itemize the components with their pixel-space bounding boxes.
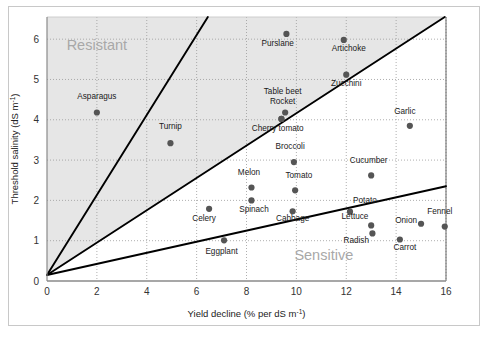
point-label: Onion [395, 216, 417, 225]
x-axis-title: Yield decline (% per dS m-1) [188, 308, 306, 319]
x-tick-label-8: 8 [244, 286, 250, 297]
point-marker [283, 31, 289, 37]
y-tick-label-6: 6 [33, 34, 39, 45]
point-marker [368, 172, 374, 178]
point-label: Artichoke [332, 44, 367, 53]
zone-label-resistant: Resistant [67, 37, 127, 53]
point-label: Broccoli [276, 142, 305, 151]
point-marker [167, 140, 173, 146]
x-tick-label-12: 12 [341, 286, 353, 297]
point-marker [248, 184, 254, 190]
point-label: Zucchini [331, 79, 362, 88]
point-marker [442, 223, 448, 229]
y-tick-label-0: 0 [33, 276, 39, 287]
point-marker [343, 72, 349, 78]
point-label: Garlic [394, 107, 415, 116]
x-tick-label-14: 14 [391, 286, 403, 297]
point-label: Radish [343, 236, 369, 245]
x-tick-label-16: 16 [440, 286, 452, 297]
point-label: Turnip [159, 122, 182, 131]
y-tick-label-4: 4 [33, 114, 39, 125]
point-label: Lettuce [342, 212, 369, 221]
point-marker [341, 37, 347, 43]
y-axis-title: Threshold salinity (dS m-1) [9, 94, 20, 205]
point-label: Cabbage [276, 214, 310, 223]
x-tick-label-4: 4 [144, 286, 150, 297]
point-label: Asparagus [77, 92, 116, 101]
point-marker [407, 123, 413, 129]
y-tick-label-3: 3 [33, 155, 39, 166]
x-tick-label-10: 10 [291, 286, 303, 297]
point-marker [278, 116, 284, 122]
point-label: Eggplant [205, 247, 238, 256]
point-label: Carrot [393, 243, 416, 252]
point-label: Melon [238, 168, 261, 177]
zone-label-sensitive: Sensitive [294, 247, 353, 263]
point-label: Tomato [285, 171, 312, 180]
x-tick-label-6: 6 [194, 286, 200, 297]
figure-frame: 02468101214160123456ResistantSensitiveAs… [0, 0, 492, 346]
y-tick-label-5: 5 [33, 74, 39, 85]
point-marker [282, 109, 288, 115]
scatter-chart: 02468101214160123456ResistantSensitiveAs… [0, 0, 492, 346]
point-marker [397, 236, 403, 242]
point-marker [94, 109, 100, 115]
y-tick-label-2: 2 [33, 195, 39, 206]
point-marker [206, 206, 212, 212]
point-marker [418, 221, 424, 227]
point-marker [292, 187, 298, 193]
point-label: Purslane [262, 39, 295, 48]
point-marker [291, 159, 297, 165]
point-label: Cucumber [350, 156, 388, 165]
point-label: Celery [192, 214, 217, 223]
point-marker [368, 222, 374, 228]
point-marker [221, 237, 227, 243]
point-label: Table beet [264, 87, 303, 96]
point-marker [248, 197, 254, 203]
x-tick-label-2: 2 [94, 286, 100, 297]
point-marker [369, 230, 375, 236]
y-tick-label-1: 1 [33, 235, 39, 246]
x-tick-label-0: 0 [44, 286, 50, 297]
point-label: Fennel [427, 207, 452, 216]
point-label: Potato [353, 196, 377, 205]
point-label: Cherry tomato [252, 124, 304, 133]
point-label: Rocket [270, 97, 296, 106]
point-label: Spinach [239, 205, 269, 214]
